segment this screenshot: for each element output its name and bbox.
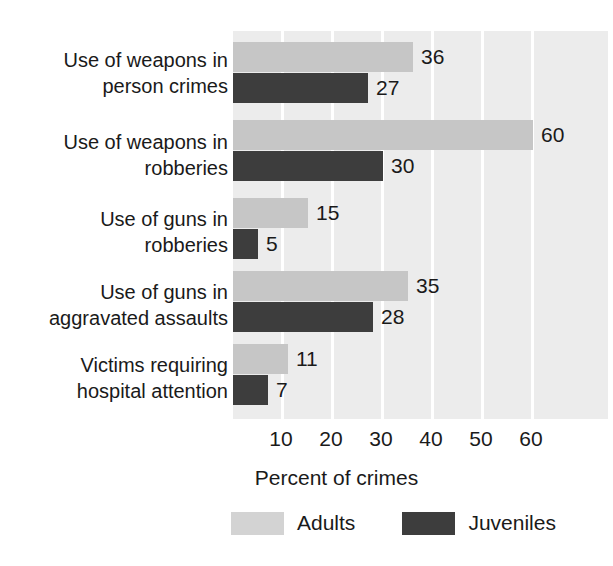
category-label-4: Victims requiring hospital attention	[0, 352, 228, 404]
x-axis-title: Percent of crimes	[0, 466, 613, 490]
bar-adults-0	[233, 42, 413, 72]
bar-value-adults-0: 36	[421, 42, 444, 72]
category-label-2: Use of guns in robberies	[0, 206, 228, 258]
bar-adults-3	[233, 271, 408, 301]
bar-value-adults-3: 35	[416, 271, 439, 301]
bar-chart: Use of weapons in person crimes Use of w…	[0, 0, 613, 566]
legend-item-juveniles: Juveniles	[402, 511, 556, 535]
category-label-4-line-1: hospital attention	[0, 378, 228, 404]
bar-value-juveniles-3: 28	[381, 302, 404, 332]
bar-value-adults-4: 11	[296, 344, 318, 374]
legend-swatch-juveniles-icon	[402, 512, 455, 535]
legend-label-juveniles: Juveniles	[468, 511, 556, 535]
gridline-40	[431, 31, 434, 419]
tick-label-10: 10	[261, 427, 301, 451]
bar-juveniles-0	[233, 73, 368, 103]
category-label-4-line-0: Victims requiring	[0, 352, 228, 378]
tick-label-50: 50	[461, 427, 501, 451]
category-label-1-line-1: robberies	[0, 155, 228, 181]
bar-value-juveniles-2: 5	[266, 229, 278, 259]
gridline-50	[481, 31, 484, 419]
category-label-0: Use of weapons in person crimes	[0, 47, 228, 99]
bar-value-adults-1: 60	[541, 120, 564, 150]
bar-juveniles-2	[233, 229, 258, 259]
legend: Adults Juveniles	[231, 511, 556, 535]
tick-label-30: 30	[361, 427, 401, 451]
category-label-3-line-0: Use of guns in	[0, 279, 228, 305]
category-label-1: Use of weapons in robberies	[0, 129, 228, 181]
bar-value-juveniles-1: 30	[391, 151, 414, 181]
category-label-0-line-0: Use of weapons in	[0, 47, 228, 73]
category-label-3-line-1: aggravated assaults	[0, 305, 228, 331]
bar-adults-4	[233, 344, 288, 374]
bar-juveniles-1	[233, 151, 383, 181]
category-label-1-line-0: Use of weapons in	[0, 129, 228, 155]
category-label-3: Use of guns in aggravated assaults	[0, 279, 228, 331]
legend-swatch-adults-icon	[231, 512, 284, 535]
tick-label-60: 60	[511, 427, 551, 451]
tick-label-20: 20	[311, 427, 351, 451]
bar-value-juveniles-4: 7	[276, 375, 288, 405]
bar-value-adults-2: 15	[316, 198, 339, 228]
bar-juveniles-4	[233, 375, 268, 405]
bar-adults-2	[233, 198, 308, 228]
category-label-2-line-1: robberies	[0, 232, 228, 258]
tick-label-40: 40	[411, 427, 451, 451]
legend-item-adults: Adults	[231, 511, 355, 535]
category-label-2-line-0: Use of guns in	[0, 206, 228, 232]
legend-label-adults: Adults	[297, 511, 355, 535]
category-label-0-line-1: person crimes	[0, 73, 228, 99]
bar-adults-1	[233, 120, 533, 150]
bar-value-juveniles-0: 27	[376, 73, 399, 103]
gridline-60	[531, 31, 534, 419]
bar-juveniles-3	[233, 302, 373, 332]
